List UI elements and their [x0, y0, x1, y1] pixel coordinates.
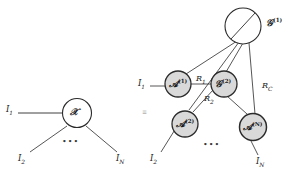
node-label-G2: 𝒢(2) — [215, 78, 231, 90]
left-leg-label-IN: IN — [116, 153, 124, 165]
rank-label-RC: RC — [262, 81, 272, 92]
rank-label-R1: R1 — [196, 74, 206, 85]
left-leg-IN — [86, 126, 117, 152]
equivalence-sign: ≡ — [142, 108, 147, 115]
right-leg-IN — [250, 139, 258, 155]
tensor-network-figure: 𝒳 I1 I2 IN ••• ≡ 𝒢(1) 𝒢(2) 𝒜(1) 𝒜(2) 𝒜(N… — [0, 0, 295, 180]
node-label-A2: 𝒜(2) — [176, 118, 194, 130]
left-leg-label-I1: I1 — [6, 104, 13, 116]
diagram-canvas — [0, 0, 295, 180]
right-leg-label-IN: IN — [256, 156, 264, 168]
edge-G1-A1 — [186, 41, 237, 74]
edge-G1-AN — [249, 43, 255, 114]
right-leg-label-I2: I2 — [150, 153, 157, 165]
left-ellipsis: ••• — [62, 137, 79, 146]
node-label-AN: 𝒜(N) — [243, 121, 262, 133]
node-label-G1: 𝒢(1) — [266, 17, 282, 29]
edge-G1-G2 — [226, 43, 243, 72]
edge-G2-AN — [227, 96, 247, 114]
right-leg-label-I1: I1 — [138, 78, 145, 90]
right-ellipsis: ••• — [203, 140, 220, 149]
node-label-script-X: 𝒳 — [70, 106, 78, 118]
left-leg-label-I2: I2 — [18, 153, 25, 165]
node-label-A1: 𝒜(1) — [169, 78, 187, 90]
rank-label-R2: R2 — [204, 94, 214, 105]
